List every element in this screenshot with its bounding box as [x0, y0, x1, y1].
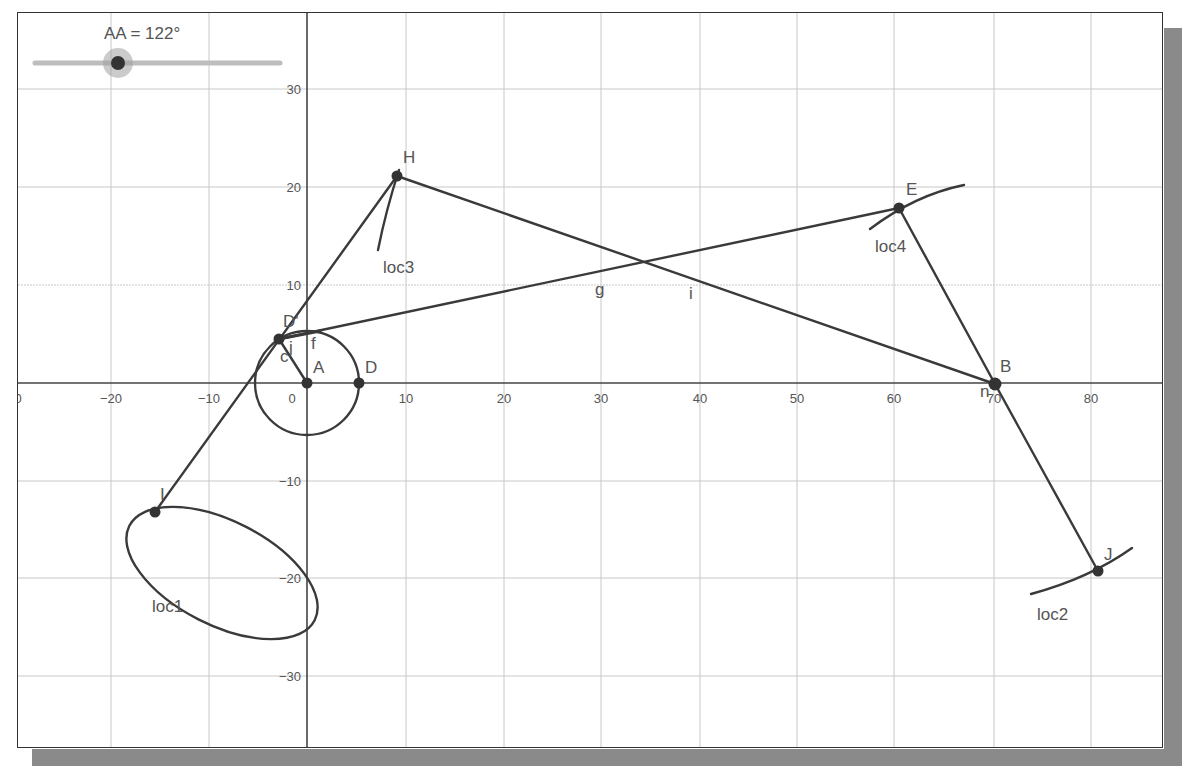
point-B[interactable] — [989, 378, 1002, 391]
locus-loc1[interactable] — [106, 479, 339, 666]
point-D[interactable] — [354, 378, 365, 389]
label-H: H — [403, 148, 415, 167]
locus-loc3[interactable] — [378, 170, 399, 250]
y-tick: −30 — [279, 669, 301, 684]
label-loc2: loc2 — [1037, 605, 1068, 624]
x-tick-labels: 0 −20 −10 0 10 20 30 40 50 60 70 80 — [14, 391, 1098, 406]
slider-AA[interactable] — [35, 48, 280, 78]
label-i: i — [689, 284, 693, 303]
point-H[interactable] — [392, 171, 403, 182]
x-tick: 80 — [1084, 391, 1098, 406]
labels: A D D' H E B J I c j f g i n loc1 loc2 l… — [152, 148, 1113, 624]
geometry-canvas[interactable]: 0 −20 −10 0 10 20 30 40 50 60 70 80 30 2… — [0, 0, 1187, 774]
label-c: c — [280, 347, 289, 366]
y-tick: 20 — [287, 180, 301, 195]
x-tick: 60 — [887, 391, 901, 406]
x-tick: −10 — [198, 391, 220, 406]
label-J: J — [1104, 545, 1113, 564]
label-D-prime: D' — [283, 312, 299, 331]
label-A: A — [313, 358, 325, 377]
slider-knob[interactable] — [111, 56, 125, 70]
label-D: D — [365, 358, 377, 377]
segment-line-IH[interactable] — [155, 176, 397, 512]
locus-loc2[interactable] — [1031, 548, 1132, 594]
segment-n[interactable] — [995, 384, 1098, 571]
label-loc1: loc1 — [152, 597, 183, 616]
y-tick: 10 — [287, 278, 301, 293]
x-tick: 40 — [693, 391, 707, 406]
label-n: n — [980, 382, 989, 401]
label-B: B — [1000, 357, 1011, 376]
point-A[interactable] — [302, 378, 313, 389]
points — [150, 171, 1104, 577]
y-tick: −20 — [279, 571, 301, 586]
x-tick: 20 — [497, 391, 511, 406]
y-tick: 30 — [287, 82, 301, 97]
segment-EB[interactable] — [899, 208, 995, 384]
x-tick: 30 — [594, 391, 608, 406]
label-g: g — [595, 280, 604, 299]
label-f: f — [311, 334, 316, 353]
graphics-view[interactable]: 0 −20 −10 0 10 20 30 40 50 60 70 80 30 2… — [0, 0, 1187, 774]
point-E[interactable] — [894, 203, 905, 214]
x-tick: 10 — [399, 391, 413, 406]
point-J[interactable] — [1093, 566, 1104, 577]
y-tick: −10 — [279, 474, 301, 489]
point-I[interactable] — [150, 507, 161, 518]
label-I: I — [160, 485, 165, 504]
label-loc3: loc3 — [383, 258, 414, 277]
label-j: j — [288, 338, 293, 357]
label-E: E — [906, 180, 917, 199]
label-loc4: loc4 — [875, 237, 906, 256]
point-D-prime[interactable] — [274, 334, 285, 345]
x-tick: −20 — [100, 391, 122, 406]
x-tick: 0 — [14, 391, 21, 406]
x-tick: 0 — [288, 391, 295, 406]
x-tick: 50 — [790, 391, 804, 406]
slider-label: AA = 122° — [104, 24, 180, 44]
